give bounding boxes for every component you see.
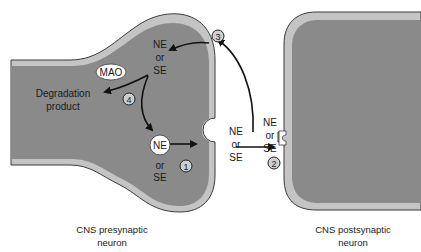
svg-text:4: 4 [126, 95, 131, 105]
released-ne: NE [229, 126, 243, 137]
receptor-ne: NE [263, 117, 277, 128]
vesicle-below-se: SE [153, 172, 167, 183]
postsynaptic-caption-line2: neuron [338, 237, 368, 248]
released-se: SE [229, 152, 243, 163]
step-1-badge: 1 [180, 160, 192, 172]
vesicle-text: NE [153, 140, 167, 151]
receptor-se: SE [263, 143, 277, 154]
synapse-diagram: NE or SE NE or SE MAO Degradation produc… [0, 0, 421, 252]
mao-label: MAO [100, 67, 123, 78]
degradation-line1: Degradation [36, 88, 90, 99]
step-3-badge: 3 [212, 30, 224, 42]
released-or: or [232, 139, 242, 150]
step-2-badge: 2 [268, 157, 280, 169]
svg-text:2: 2 [271, 159, 276, 169]
postsynaptic-caption-line1: CNS postsynaptic [315, 224, 391, 235]
reuptake-se: SE [153, 65, 167, 76]
reuptake-or: or [156, 52, 166, 63]
release-site [204, 119, 226, 141]
reuptake-arrow [218, 40, 253, 132]
receptor-or: or [266, 130, 276, 141]
reuptake-ne: NE [153, 39, 167, 50]
presynaptic-caption-line1: CNS presynaptic [76, 224, 148, 235]
presynaptic-neuron [11, 14, 215, 212]
postsynaptic-cytoplasm [292, 20, 421, 203]
presynaptic-caption-line2: neuron [97, 237, 127, 248]
svg-text:3: 3 [215, 32, 220, 42]
step-4-badge: 4 [123, 93, 135, 105]
svg-text:1: 1 [183, 162, 188, 172]
degradation-line2: product [46, 101, 80, 112]
vesicle-below-or: or [156, 160, 166, 171]
postsynaptic-neuron [278, 12, 421, 210]
